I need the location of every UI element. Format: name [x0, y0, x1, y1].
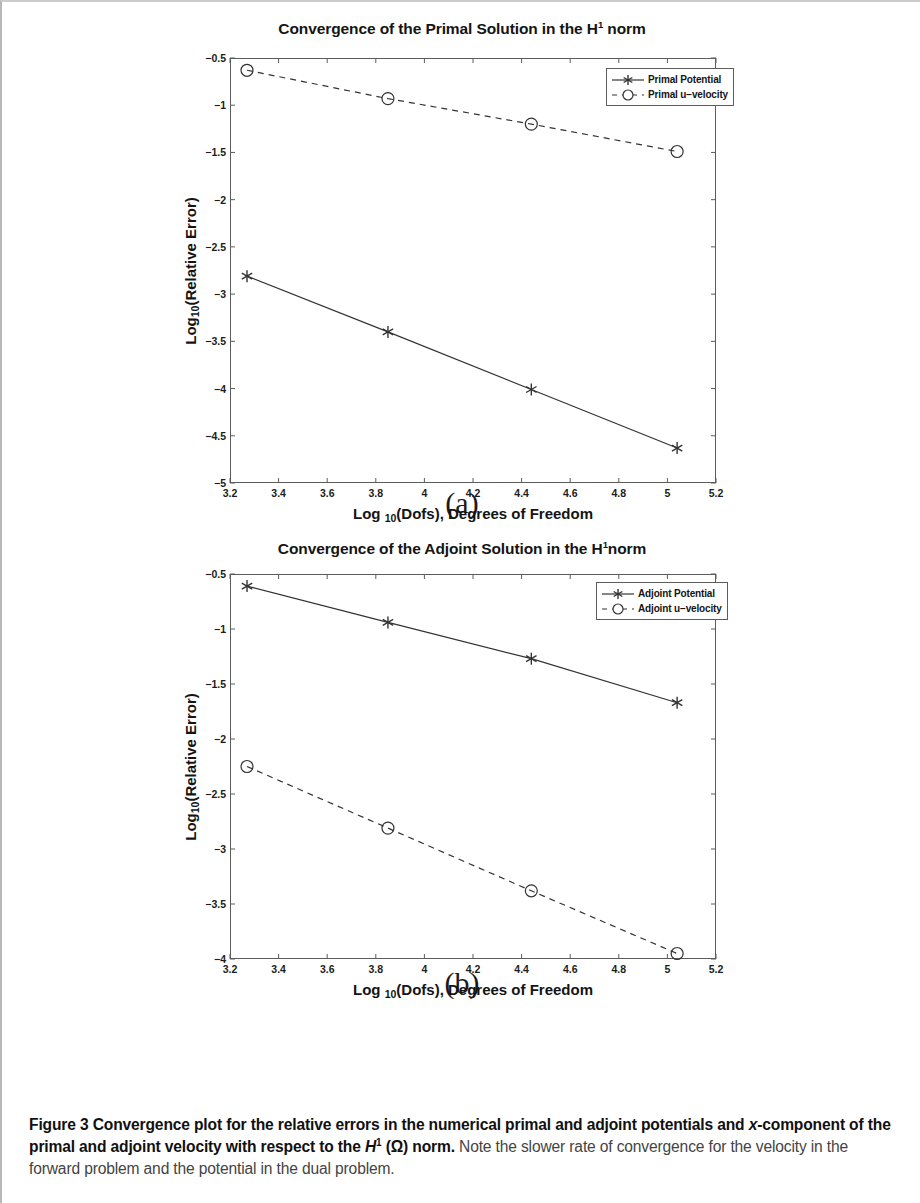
- x-tick-label: 3.6: [320, 487, 335, 499]
- x-tick-label: 3.4: [271, 963, 286, 975]
- x-tick-label: 3.8: [368, 963, 383, 975]
- x-tick-label: 3.8: [368, 487, 383, 499]
- y-axis-label: Log10(Relative Error): [182, 693, 199, 841]
- y-tick-label: −4.5: [205, 430, 226, 442]
- data-point-marker-asterisk: [526, 653, 536, 665]
- x-tick-label: 4.8: [611, 487, 626, 499]
- y-tick-label: −3.5: [205, 335, 226, 347]
- y-tick-label: −3.5: [205, 898, 226, 910]
- y-tick-label: −5: [214, 477, 226, 489]
- data-point-marker-circle: [382, 822, 394, 834]
- x-tick-label: 5: [664, 487, 670, 499]
- x-tick-label: 4.6: [563, 487, 578, 499]
- data-point-marker-asterisk: [242, 270, 252, 282]
- x-axis-label-prefix: Log: [353, 981, 385, 998]
- x-tick-label: 3.4: [271, 487, 286, 499]
- x-tick-label: 5.2: [709, 487, 724, 499]
- y-tick-label: −2.5: [205, 788, 226, 800]
- legend-label: Adjoint Potential: [638, 588, 715, 599]
- x-tick-label: 4.2: [466, 487, 481, 499]
- chart-adjoint-title: Convergence of the Adjoint Solution in t…: [2, 540, 920, 558]
- data-point-marker-asterisk: [242, 580, 252, 592]
- legend-item-0: Adjoint Potential: [601, 586, 722, 601]
- y-tick-label: −1.5: [205, 678, 226, 690]
- y-axis-label-sub: 10: [189, 801, 201, 813]
- legend-swatch-solid-asterisk: [601, 587, 635, 601]
- x-tick-label: 5.2: [709, 963, 724, 975]
- y-tick-label: −3: [214, 843, 226, 855]
- y-axis-label-suffix: (Relative Error): [182, 197, 199, 305]
- y-axis-label-prefix: Log: [182, 317, 199, 345]
- figure-page: Convergence of the Primal Solution in th…: [0, 0, 920, 1203]
- figure-area: Convergence of the Primal Solution in th…: [2, 2, 920, 998]
- plot-canvas: [2, 38, 920, 488]
- y-axis-label-suffix: (Relative Error): [182, 693, 199, 801]
- x-tick-label: 4.4: [514, 963, 529, 975]
- plot-canvas: [2, 558, 920, 968]
- x-tick-label: 3.6: [320, 963, 335, 975]
- legend-item-0: Primal Potential: [611, 72, 728, 87]
- legend: Primal PotentialPrimal u−velocity: [606, 68, 734, 106]
- chart-primal-title: Convergence of the Primal Solution in th…: [2, 20, 920, 38]
- y-tick-label: −1: [214, 99, 226, 111]
- data-point-marker-asterisk: [672, 442, 682, 454]
- y-tick-label: −2: [214, 733, 226, 745]
- chart-adjoint: Convergence of the Adjoint Solution in t…: [2, 518, 920, 998]
- legend-swatch-dashed-circle: [611, 88, 645, 102]
- x-tick-label: 4.8: [611, 963, 626, 975]
- x-tick-label: 4.6: [563, 963, 578, 975]
- y-tick-label: −1: [214, 623, 226, 635]
- data-point-marker-circle: [671, 146, 683, 158]
- x-tick-label: 5: [664, 963, 670, 975]
- y-tick-label: −3: [214, 288, 226, 300]
- adjoint-plot-area: 3.23.43.63.844.24.44.64.855.2−4−3.5−3−2.…: [2, 558, 920, 968]
- data-point-marker-asterisk: [526, 384, 536, 396]
- y-tick-label: −4: [214, 383, 226, 395]
- legend-item-1: Adjoint u−velocity: [601, 601, 722, 616]
- y-axis-label-sub: 10: [189, 305, 201, 317]
- legend-label: Primal u−velocity: [648, 89, 728, 100]
- data-point-marker-circle: [671, 948, 683, 960]
- chart-primal: Convergence of the Primal Solution in th…: [2, 2, 920, 518]
- x-axis-label-suffix: (Dofs), Degrees of Freedom: [396, 981, 593, 998]
- y-axis-label: Log10(Relative Error): [182, 197, 199, 345]
- legend-label: Adjoint u−velocity: [638, 603, 722, 614]
- y-tick-label: −2: [214, 194, 226, 206]
- legend-swatch-dashed-circle: [601, 602, 635, 616]
- x-axis-label: Log 10(Dofs), Degrees of Freedom: [230, 981, 716, 998]
- y-axis-label-prefix: Log: [182, 813, 199, 841]
- data-point-marker-asterisk: [383, 616, 393, 628]
- data-point-marker-asterisk: [383, 326, 393, 338]
- primal-plot-area: 3.23.43.63.844.24.44.64.855.2−5−4.5−4−3.…: [2, 38, 920, 488]
- legend-swatch-solid-asterisk: [611, 73, 645, 87]
- legend-label: Primal Potential: [648, 74, 721, 85]
- x-tick-label: 4.4: [514, 487, 529, 499]
- x-tick-label: 4.2: [466, 963, 481, 975]
- y-tick-label: −1.5: [205, 146, 226, 158]
- y-tick-label: −0.5: [205, 568, 226, 580]
- y-tick-label: −4: [214, 953, 226, 965]
- legend: Adjoint PotentialAdjoint u−velocity: [596, 582, 728, 620]
- series-line-0: [247, 276, 677, 448]
- figure-caption: Figure 3 Convergence plot for the relati…: [29, 1114, 895, 1180]
- series-line-1: [247, 767, 677, 954]
- y-tick-label: −0.5: [205, 52, 226, 64]
- y-tick-label: −2.5: [205, 241, 226, 253]
- x-tick-label: 4: [421, 963, 427, 975]
- data-point-marker-asterisk: [672, 697, 682, 709]
- x-axis-label-sub: 10: [385, 988, 397, 1000]
- legend-item-1: Primal u−velocity: [611, 87, 728, 102]
- x-tick-label: 4: [421, 487, 427, 499]
